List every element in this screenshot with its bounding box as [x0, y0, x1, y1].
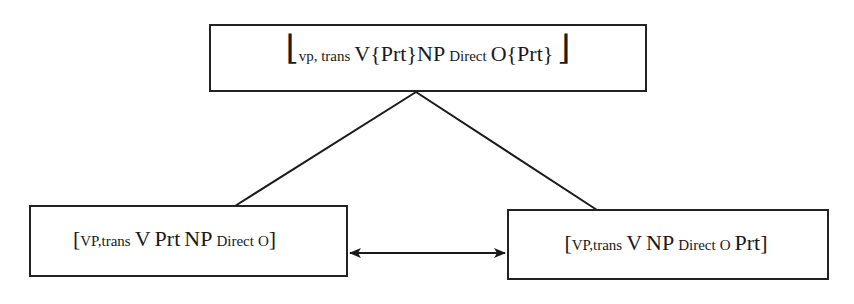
symbol-prt-optional: {Prt}	[507, 41, 554, 66]
right-node-label: [VP,trans V NP Direct O Prt]	[564, 230, 767, 256]
top-node-box: ⌊vp, trans V{Prt}NP Direct O{Prt} ⌋	[209, 24, 647, 92]
left-node-label: [VP,trans V Prt NP Direct O]	[73, 226, 276, 252]
label-direct: Direct	[678, 237, 715, 253]
symbol-np: NP	[184, 226, 212, 251]
symbol-np: NP	[646, 230, 674, 255]
open-bracket: ⌊	[285, 29, 298, 66]
symbol-o: O	[491, 41, 507, 66]
right-node-box: [VP,trans V NP Direct O Prt]	[507, 209, 829, 280]
symbol-v: V	[135, 226, 151, 251]
symbol-v: V	[354, 41, 370, 66]
edge-top-to-right	[416, 92, 597, 210]
symbol-prt: Prt	[155, 226, 181, 251]
label-direct: Direct	[449, 48, 486, 64]
symbol-o: O	[720, 237, 731, 253]
close-bracket: ⌋	[557, 29, 570, 66]
top-node-label: ⌊vp, trans V{Prt}NP Direct O{Prt} ⌋	[285, 33, 570, 67]
label-direct: Direct	[216, 233, 253, 249]
subscript-label: vp, trans	[299, 48, 351, 64]
symbol-prt-optional: {Prt}	[370, 41, 417, 66]
subscript-label: VP,trans	[572, 237, 622, 253]
left-node-box: [VP,trans V Prt NP Direct O]	[29, 205, 348, 277]
close-bracket: ]	[269, 226, 276, 251]
open-bracket: [	[564, 230, 571, 255]
symbol-prt: Prt	[735, 230, 761, 255]
symbol-o: O	[258, 233, 269, 249]
subscript-label: VP,trans	[80, 233, 130, 249]
close-bracket: ]	[760, 230, 767, 255]
symbol-np: NP	[417, 41, 445, 66]
edge-top-to-left	[235, 92, 416, 206]
symbol-v: V	[626, 230, 642, 255]
